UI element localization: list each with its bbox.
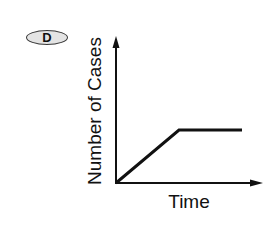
y-axis-arrowhead-icon <box>113 36 120 48</box>
line-chart <box>0 0 278 226</box>
chart-panel: D Number of Cases Time <box>0 0 278 226</box>
x-axis-arrowhead-icon <box>250 180 263 187</box>
y-axis-label: Number of Cases <box>84 37 106 185</box>
x-axis-label: Time <box>168 191 210 213</box>
data-series-line <box>116 130 242 183</box>
